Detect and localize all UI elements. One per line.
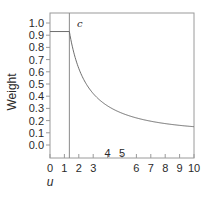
y-tick-label: 0.3: [29, 102, 44, 114]
x-axis: 012345678910: [47, 147, 200, 174]
y-tick-label: 1.0: [29, 17, 44, 29]
y-tick-label: 0.2: [29, 115, 44, 127]
x-tick-label: 4: [105, 147, 111, 159]
y-tick-label: 0.4: [29, 90, 44, 102]
y-tick-label: 0.0: [29, 139, 44, 151]
plot-frame: [50, 13, 194, 158]
weight-curve: [50, 32, 194, 127]
y-tick-label: 0.1: [29, 127, 44, 139]
y-tick-label: 0.7: [29, 54, 44, 66]
chart: Weight u c 0.00.10.20.30.40.50.60.70.80.…: [0, 0, 210, 197]
x-tick-label: 0: [47, 162, 53, 174]
y-axis: 0.00.10.20.30.40.50.60.70.80.91.0: [29, 17, 50, 151]
x-tick-label: 10: [188, 162, 200, 174]
x-tick-label: 3: [90, 162, 96, 174]
x-tick-label: 7: [148, 162, 154, 174]
x-tick-label: 5: [119, 147, 125, 159]
y-tick-label: 0.5: [29, 78, 44, 90]
cutoff-annotation: c: [77, 18, 83, 29]
x-tick-label: 2: [76, 162, 82, 174]
x-tick-label: 1: [61, 162, 67, 174]
y-tick-label: 0.6: [29, 66, 44, 78]
x-axis-title: u: [47, 175, 54, 189]
y-axis-title: Weight: [5, 73, 19, 111]
y-tick-label: 0.9: [29, 29, 44, 41]
x-tick-label: 9: [177, 162, 183, 174]
x-tick-label: 6: [133, 162, 139, 174]
y-tick-label: 0.8: [29, 41, 44, 53]
x-tick-label: 8: [162, 162, 168, 174]
